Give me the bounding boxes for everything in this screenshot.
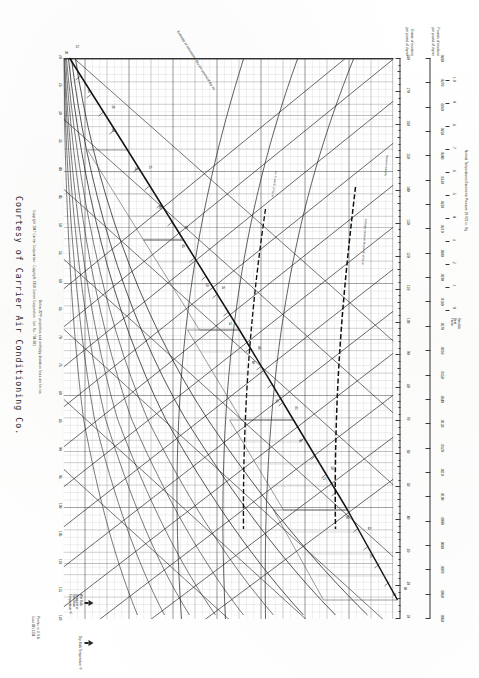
grains-minor-tick xyxy=(397,565,400,566)
dry-bulb-arrow-stem xyxy=(84,642,88,645)
pounds-tick-label: .0080 xyxy=(439,541,443,549)
grains-minor-tick xyxy=(398,183,400,184)
grains-tick-label: 120 xyxy=(405,252,409,257)
grains-minor-tick xyxy=(398,210,400,211)
enthalpy-tick-label: 35 xyxy=(220,286,224,289)
grains-tick-label: 150 xyxy=(405,153,409,158)
pounds-tick-label: .0220 xyxy=(439,200,443,208)
enthalpy-tick-label: 40 xyxy=(256,346,260,349)
grains-tick-label: 90 xyxy=(405,351,409,355)
grains-scale-rule xyxy=(399,58,400,618)
pounds-moisture-caption-line2: per pound of dry air xyxy=(430,4,434,56)
grains-tick xyxy=(395,519,400,520)
grains-tick xyxy=(395,453,400,454)
pounds-tick xyxy=(425,521,430,522)
pounds-tick xyxy=(425,618,430,619)
wet-bulb-tick-label: 65 xyxy=(274,399,278,402)
barometric-pressure-note: Normal Temperatures Barometric Pressure … xyxy=(463,150,467,231)
grains-tick xyxy=(395,552,400,553)
grains-tick xyxy=(395,124,400,125)
dry-bulb-tick-label: 55 xyxy=(57,251,61,255)
shf-tick xyxy=(446,241,450,242)
pounds-tick-label: .0110 xyxy=(439,468,443,476)
printed-in-line: Printed in U.S.A. xyxy=(35,616,39,640)
shf-tick xyxy=(446,195,450,196)
pounds-tick-label: .0200 xyxy=(439,249,443,257)
wet-bulb-tick-label: 35 xyxy=(133,167,137,170)
wet-bulb-tick-label: 20 xyxy=(63,51,67,54)
grains-minor-tick xyxy=(398,493,400,494)
shf-tick-label: 0 xyxy=(451,307,455,309)
grains-minor-tick xyxy=(398,513,400,514)
pounds-tick-label: .0240 xyxy=(439,151,443,159)
grains-minor-tick xyxy=(398,506,400,507)
dry-bulb-tick-label: 75 xyxy=(57,363,61,367)
grains-minor-tick xyxy=(398,78,400,79)
dry-bulb-tick-label: 70 xyxy=(57,335,61,339)
dry-bulb-tick-label: 40 xyxy=(57,167,61,171)
wet-bulb-key-block: Wet Bulb, Dewpoint or Saturation Tempera… xyxy=(67,594,82,614)
wet-bulb-tick-label: 70 xyxy=(297,438,301,441)
wet-bulb-caption-line4: Temperature °F xyxy=(67,594,71,614)
dry-bulb-tick-label: 120 xyxy=(57,615,61,620)
grains-tick-label: 30 xyxy=(405,549,409,553)
grains-tick xyxy=(395,322,400,323)
shf-tick xyxy=(446,310,450,311)
pounds-tick-label: .0050 xyxy=(439,614,443,622)
grains-tick-label: 180 xyxy=(405,55,409,60)
pounds-tick xyxy=(425,448,430,449)
pounds-tick xyxy=(425,82,430,83)
pounds-tick xyxy=(425,58,430,59)
psychrometric-chart-stage: Pounds of moisture per pound of dry air … xyxy=(0,0,479,678)
pounds-tick xyxy=(425,204,430,205)
wet-bulb-tick-label: 60 xyxy=(250,361,254,364)
shf-tick xyxy=(446,103,450,104)
shf-tick-label: .3 xyxy=(451,238,455,241)
grains-tick xyxy=(395,223,400,224)
shf-tick-label: .7 xyxy=(451,146,455,149)
grains-minor-tick xyxy=(398,447,400,448)
chart-gridlines-and-curves xyxy=(63,59,393,619)
grains-minor-tick xyxy=(398,605,400,606)
shf-tick-label: .9 xyxy=(451,100,455,103)
grains-minor-tick xyxy=(397,368,400,369)
pounds-tick-label: .0130 xyxy=(439,419,443,427)
pounds-tick-label: .0280 xyxy=(439,54,443,62)
grains-minor-tick xyxy=(398,111,400,112)
dry-bulb-tick-label: 35 xyxy=(57,139,61,143)
grains-tick xyxy=(395,420,400,421)
grains-tick-label: 160 xyxy=(405,120,409,125)
dry-bulb-tick-label: 65 xyxy=(57,307,61,311)
grains-minor-tick xyxy=(397,598,400,599)
pounds-tick xyxy=(425,180,430,181)
pounds-tick xyxy=(425,569,430,570)
pounds-tick-label: .0090 xyxy=(439,517,443,525)
pounds-tick xyxy=(425,131,430,132)
pounds-tick xyxy=(425,496,430,497)
dry-bulb-tick-label: 100 xyxy=(57,503,61,508)
grains-minor-tick xyxy=(398,592,400,593)
pounds-tick xyxy=(425,253,430,254)
grains-tick xyxy=(395,157,400,158)
pounds-tick-label: .0210 xyxy=(439,224,443,232)
wet-bulb-tick-label: 25 xyxy=(86,90,90,93)
shf-tick-label: .1 xyxy=(451,284,455,287)
grains-minor-tick xyxy=(398,275,400,276)
wet-bulb-tick-label: 85 xyxy=(368,554,372,557)
dry-bulb-tick-label: 30 xyxy=(57,111,61,115)
dry-bulb-caption: Dry Bulb Temperature °F xyxy=(77,636,81,670)
wet-bulb-arrow-stem xyxy=(84,602,88,605)
pounds-scale-rule xyxy=(429,58,430,618)
catalog-code-line: Code 891 1234 xyxy=(30,616,34,636)
pounds-tick xyxy=(425,277,430,278)
copyright-line: Copyright 1947 Carrier Corporation · Cop… xyxy=(31,210,35,346)
enthalpy-tick-label: 20 xyxy=(110,105,114,108)
grains-minor-tick xyxy=(397,170,400,171)
grains-minor-tick xyxy=(397,71,400,72)
pounds-tick-label: .0060 xyxy=(439,590,443,598)
enthalpy-tick-label: 50 xyxy=(329,467,333,470)
pounds-moisture-caption-line1: Pounds of moisture xyxy=(435,4,439,56)
shf-tick xyxy=(446,149,450,150)
grains-minor-tick xyxy=(398,394,400,395)
pounds-tick xyxy=(425,301,430,302)
